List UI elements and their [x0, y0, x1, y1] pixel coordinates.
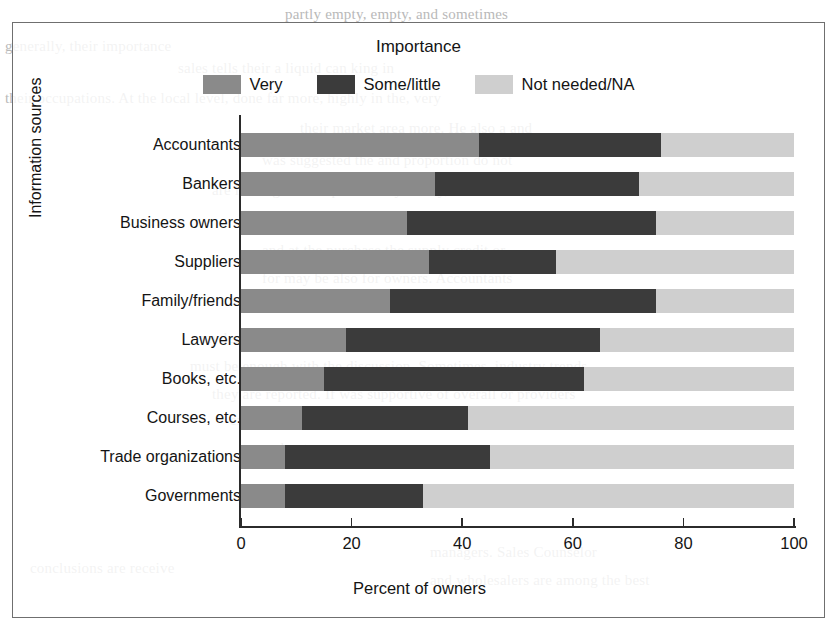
bar-segment: [241, 289, 390, 313]
x-axis-tick: [461, 518, 463, 526]
bar-segment: [241, 406, 302, 430]
bar-row: [241, 484, 794, 508]
bar-segment: [556, 250, 794, 274]
x-axis-tick-label: 40: [453, 534, 471, 553]
x-axis-tick: [572, 518, 574, 526]
bar-segment: [324, 367, 584, 391]
bar-segment: [490, 445, 794, 469]
bar-row: [241, 211, 794, 235]
bar-row: [241, 250, 794, 274]
bar-segment: [285, 484, 423, 508]
bar-segment: [429, 250, 556, 274]
bar-segment: [656, 211, 794, 235]
category-label: Governments: [31, 486, 241, 506]
x-axis-tick-label: 20: [342, 534, 360, 553]
x-axis-line: [239, 526, 796, 528]
bar-row: [241, 328, 794, 352]
bar-segment: [407, 211, 656, 235]
x-axis-tick: [240, 518, 242, 526]
category-label: Business owners: [31, 213, 241, 233]
bar-segment: [390, 289, 655, 313]
x-axis-tick: [351, 518, 353, 526]
category-label: Accountants: [31, 135, 241, 155]
bar-segment: [479, 133, 661, 157]
bar-row: [241, 133, 794, 157]
bar-row: [241, 172, 794, 196]
bar-segment: [600, 328, 794, 352]
bar-segment: [468, 406, 794, 430]
bar-segment: [302, 406, 468, 430]
category-label: Suppliers: [31, 252, 241, 272]
category-label: Books, etc.: [31, 369, 241, 389]
x-axis-title: Percent of owners: [13, 579, 826, 598]
bar-segment: [435, 172, 640, 196]
bar-segment: [656, 289, 794, 313]
x-axis-tick-label: 60: [564, 534, 582, 553]
bar-segment: [241, 250, 429, 274]
bar-segment: [346, 328, 600, 352]
plot-area: Information sources AccountantsBankersBu…: [13, 23, 826, 619]
bar-segment: [241, 172, 435, 196]
bar-segment: [639, 172, 794, 196]
bar-segment: [241, 211, 407, 235]
bar-segment: [241, 328, 346, 352]
figure-frame: Importance Very Some/little Not needed/N…: [12, 22, 825, 618]
bar-segment: [584, 367, 794, 391]
category-label: Family/friends: [31, 291, 241, 311]
bar-segment: [241, 445, 285, 469]
x-axis-tick-label: 80: [674, 534, 692, 553]
bar-segment: [241, 484, 285, 508]
bar-row: [241, 289, 794, 313]
category-label: Courses, etc.: [31, 408, 241, 428]
x-axis-tick: [683, 518, 685, 526]
category-label: Trade organizations: [31, 447, 241, 467]
bar-segment: [241, 133, 479, 157]
bar-row: [241, 406, 794, 430]
category-label: Lawyers: [31, 330, 241, 350]
bar-row: [241, 445, 794, 469]
y-axis-line: [239, 115, 241, 526]
category-labels: AccountantsBankersBusiness ownersSupplie…: [23, 23, 241, 619]
bar-row: [241, 367, 794, 391]
x-axis-tick-label: 0: [236, 534, 245, 553]
bar-segment: [285, 445, 490, 469]
bar-segment: [241, 367, 324, 391]
x-axis-tick: [793, 518, 795, 526]
bar-segment: [423, 484, 794, 508]
category-label: Bankers: [31, 174, 241, 194]
x-axis-tick-label: 100: [780, 534, 808, 553]
bar-segment: [661, 133, 794, 157]
